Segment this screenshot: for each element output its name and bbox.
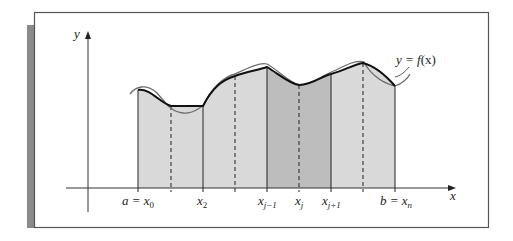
x-axis-label: x [449,188,456,203]
frame-shadow [27,25,35,228]
trapezoid-rule-figure: y x y = f(x) a = x0 x2 xj−1 xj xj+1 b = … [0,0,513,241]
function-label: y = f(x) [394,52,436,67]
y-axis-label: y [72,26,80,41]
